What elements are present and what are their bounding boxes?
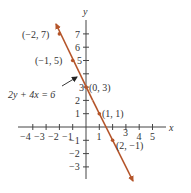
coordinate-plane: x y −4 −3 −2 −1 1 3 4 5 7 6 <box>0 0 191 193</box>
svg-text:5: 5 <box>77 55 82 66</box>
svg-text:3: 3 <box>123 127 128 138</box>
svg-text:−2: −2 <box>69 148 80 159</box>
svg-text:6: 6 <box>75 42 80 53</box>
y-tick-labels: 7 6 5 3 2 1 −1 −2 −3 <box>69 29 84 173</box>
y-axis-label: y <box>82 6 88 17</box>
svg-text:−3: −3 <box>34 131 45 142</box>
point-2-neg1 <box>111 139 115 143</box>
svg-text:−4: −4 <box>20 131 31 142</box>
point-1-1 <box>98 112 102 116</box>
point-label-neg2-7: (−2, 7) <box>22 29 49 41</box>
point-neg1-5 <box>71 59 75 63</box>
svg-text:1: 1 <box>97 131 102 142</box>
point-0-3 <box>84 85 88 89</box>
point-label-1-1: (1, 1) <box>102 108 124 120</box>
point-label-neg1-5: (−1, 5) <box>35 55 62 67</box>
equation-label: 2y + 4x = 6 <box>8 89 55 100</box>
point-neg2-7 <box>58 32 62 36</box>
point-label-2-neg1: (2, −1) <box>116 140 143 152</box>
x-axis-label: x <box>168 122 174 133</box>
svg-text:1: 1 <box>75 108 80 119</box>
svg-text:3: 3 <box>79 82 84 93</box>
svg-text:−2: −2 <box>48 131 59 142</box>
svg-text:7: 7 <box>75 29 80 40</box>
svg-text:2: 2 <box>75 95 80 106</box>
svg-text:5: 5 <box>150 131 155 142</box>
svg-text:−3: −3 <box>69 161 80 172</box>
annotation-arrow <box>62 77 77 86</box>
svg-text:−1: −1 <box>69 135 80 146</box>
point-label-0-3: (0, 3) <box>89 82 111 94</box>
